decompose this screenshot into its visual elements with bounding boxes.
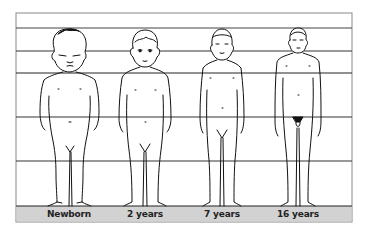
label-16-years: 16 years — [263, 206, 333, 222]
label-7-years: 7 years — [187, 206, 257, 222]
label-2-years: 2 years — [110, 206, 180, 222]
diagram-canvas — [0, 0, 365, 234]
proportion-diagram: Newborn 2 years 7 years 16 years — [0, 0, 365, 234]
label-newborn: Newborn — [34, 206, 104, 222]
